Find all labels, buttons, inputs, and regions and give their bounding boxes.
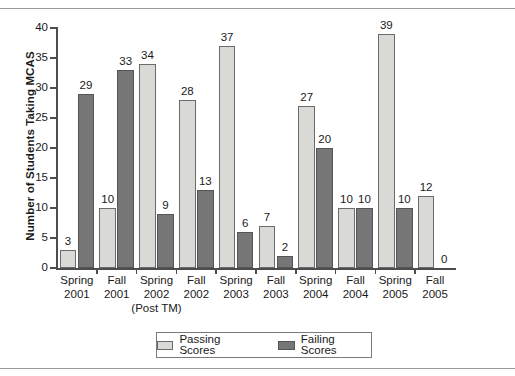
- bar-failing: [78, 94, 95, 268]
- y-tick-label: 10: [22, 202, 48, 214]
- bar-value-label: 7: [255, 212, 280, 224]
- bar-failing: [396, 208, 413, 268]
- y-tick-label: 0: [22, 262, 48, 274]
- bar-failing: [356, 208, 373, 268]
- bar-failing: [157, 214, 174, 268]
- bar-value-label: 33: [113, 56, 138, 68]
- y-tick-label: 40: [22, 22, 48, 34]
- bar-value-label: 2: [273, 242, 298, 254]
- bar-chart-figure: Number of Students Taking MCAS 051015202…: [0, 0, 515, 376]
- bar-value-label: 3: [56, 236, 81, 248]
- bar-value-label: 12: [414, 182, 439, 194]
- category-season: Fall: [395, 274, 475, 288]
- y-tick-label: 5: [22, 232, 48, 244]
- bar-passing: [378, 34, 395, 268]
- plot-area: 3291033349281337672272010103910120: [57, 28, 455, 268]
- y-tick: [50, 87, 56, 89]
- top-border-rule: [0, 8, 515, 9]
- legend-swatch-fail: [278, 341, 294, 350]
- y-tick: [50, 147, 56, 149]
- category-year: 2005: [395, 288, 475, 302]
- bar-value-label: 39: [374, 20, 399, 32]
- bar-value-label: 29: [74, 80, 99, 92]
- bar-value-label: 13: [193, 176, 218, 188]
- bar-passing: [219, 46, 236, 268]
- bar-failing: [237, 232, 254, 268]
- legend-label: Passing Scores: [179, 334, 256, 357]
- legend-item: Passing Scores: [157, 334, 256, 357]
- x-category-label: Fall2005: [395, 274, 475, 301]
- chart-legend: Passing ScoresFailing Scores: [156, 332, 372, 358]
- bar-failing: [316, 148, 333, 268]
- y-tick: [50, 177, 56, 179]
- bar-value-label: 10: [95, 194, 120, 206]
- bar-value-label: 10: [392, 194, 417, 206]
- y-tick-label: 20: [22, 142, 48, 154]
- y-tick: [50, 207, 56, 209]
- bar-passing: [139, 64, 156, 268]
- bar-passing: [338, 208, 355, 268]
- bar-passing: [99, 208, 116, 268]
- category-note: (Post TM): [117, 302, 197, 316]
- bar-passing: [60, 250, 77, 268]
- y-tick-label: 35: [22, 52, 48, 64]
- bar-value-label: 27: [294, 92, 319, 104]
- legend-item: Failing Scores: [278, 334, 371, 357]
- y-tick: [50, 27, 56, 29]
- bar-value-label: 10: [352, 194, 377, 206]
- y-tick: [50, 57, 56, 59]
- y-tick-label: 25: [22, 112, 48, 124]
- bar-failing: [277, 256, 294, 268]
- y-tick-label: 15: [22, 172, 48, 184]
- bar-failing: [117, 70, 134, 268]
- bar-value-label: 34: [135, 50, 160, 62]
- bar-value-label: 37: [215, 32, 240, 44]
- bar-value-label: 9: [153, 200, 178, 212]
- bar-passing: [298, 106, 315, 268]
- legend-swatch-pass: [157, 341, 173, 350]
- y-tick: [50, 117, 56, 119]
- bar-failing: [197, 190, 214, 268]
- legend-label: Failing Scores: [301, 334, 371, 357]
- y-tick: [50, 267, 56, 269]
- bar-value-label: 20: [312, 134, 337, 146]
- y-tick-label: 30: [22, 82, 48, 94]
- bottom-border-rule: [0, 368, 515, 369]
- bar-value-label: 28: [175, 86, 200, 98]
- bar-value-label: 0: [432, 254, 457, 266]
